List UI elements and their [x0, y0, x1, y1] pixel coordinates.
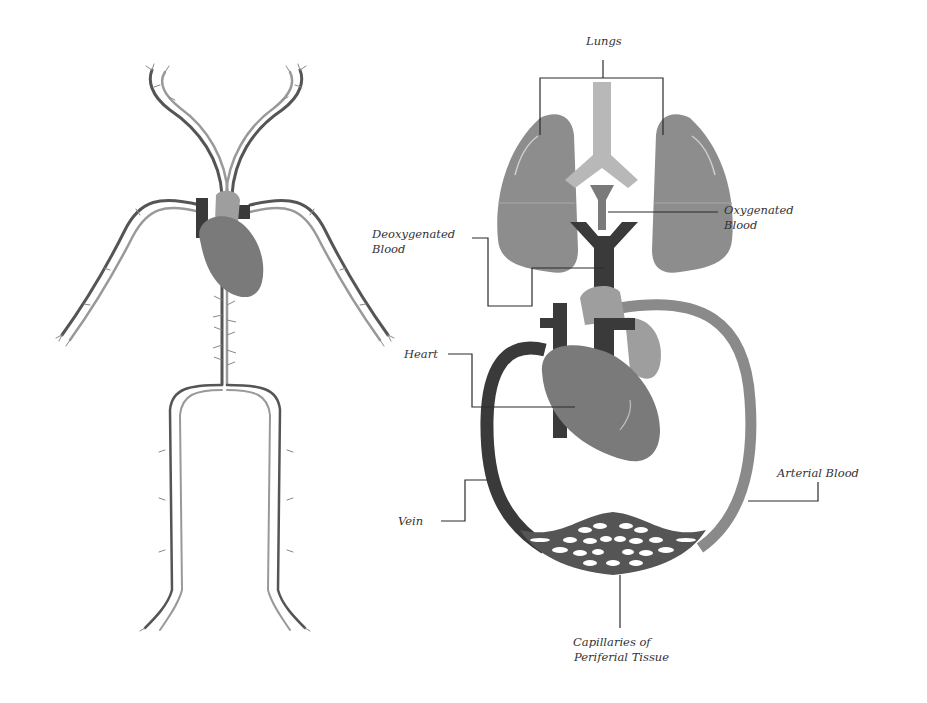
vein-loop [487, 348, 545, 548]
label-arterial: Arterial Blood [776, 466, 859, 480]
capillary-bed [520, 512, 706, 575]
label-capillaries-2: Periferial Tissue [573, 650, 669, 664]
trachea [565, 82, 638, 190]
label-deoxygenated-2: Blood [371, 242, 405, 256]
leg-vessels [140, 385, 310, 631]
label-oxygenated-1: Oxygenated [724, 203, 794, 217]
heart [540, 286, 661, 461]
label-deoxygenated-1: Deoxygenated [371, 227, 455, 241]
circulation-loop-figure: Lungs Oxygenated Blood Deoxygenated Bloo… [371, 34, 859, 664]
vein-leader [441, 480, 488, 521]
circulatory-diagram: Lungs Oxygenated Blood Deoxygenated Bloo… [0, 0, 927, 703]
label-heart: Heart [403, 347, 438, 361]
label-capillaries-1: Capillaries of [573, 635, 652, 649]
pulmonary-vessels [570, 185, 638, 288]
label-oxygenated-2: Blood [723, 218, 757, 232]
small-heart [196, 191, 263, 297]
torso-vessel [213, 280, 236, 385]
body-vascular-figure [56, 64, 394, 631]
lungs [497, 114, 733, 272]
head-vessels [146, 64, 306, 195]
label-vein: Vein [398, 514, 423, 528]
label-lungs: Lungs [585, 34, 622, 48]
arterial-leader [748, 482, 818, 501]
